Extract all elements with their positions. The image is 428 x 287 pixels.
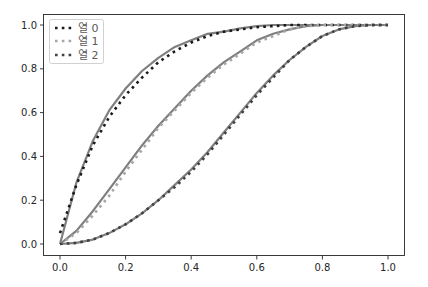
x-tick-label: 0.4 <box>183 262 199 273</box>
y-tick-label: 0.2 <box>21 195 37 206</box>
x-tick-label: 0.6 <box>249 262 265 273</box>
x-tick-label: 1.0 <box>380 262 396 273</box>
legend-label-0: 열 0 <box>78 22 99 35</box>
legend-label-1: 열 1 <box>78 35 99 48</box>
x-tick-label: 0.8 <box>314 262 330 273</box>
legend: 열 0 열 1 열 2 <box>50 20 104 64</box>
y-tick-label: 0.0 <box>21 239 37 250</box>
y-tick-label: 0.8 <box>21 63 37 74</box>
y-tick-label: 0.6 <box>21 107 37 118</box>
x-tick-label: 0.2 <box>118 262 134 273</box>
line-chart: 0.00.20.40.60.81.0 0.00.20.40.60.81.0 열 … <box>0 0 428 287</box>
y-tick-label: 0.4 <box>21 151 37 162</box>
legend-label-2: 열 2 <box>78 49 99 62</box>
x-tick-label: 0.0 <box>52 262 68 273</box>
y-tick-label: 1.0 <box>21 20 37 31</box>
